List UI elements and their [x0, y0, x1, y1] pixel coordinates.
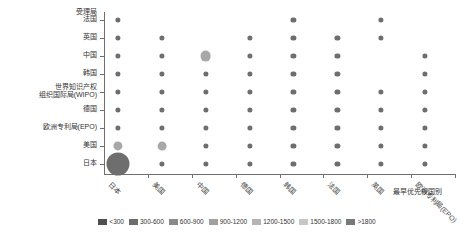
data-bubble: [159, 161, 164, 166]
legend-item[interactable]: 300-600: [129, 218, 164, 225]
legend-swatch: [169, 219, 178, 225]
x-axis-tick: [367, 174, 368, 178]
y-axis-label-line: 韩国: [0, 69, 97, 77]
x-axis-label: 德国: [238, 179, 255, 196]
data-bubble: [291, 107, 296, 112]
data-bubble: [335, 161, 340, 166]
data-bubble: [335, 53, 340, 58]
y-axis-label: 世界知识产权组织国际局(WIPO): [0, 83, 97, 99]
data-bubble: [115, 53, 120, 58]
data-bubble: [335, 125, 340, 130]
data-bubble: [106, 153, 129, 176]
data-bubble: [291, 89, 296, 94]
x-axis-label: 英国: [370, 179, 387, 196]
y-axis-label: 英国: [0, 33, 97, 41]
data-bubble: [422, 89, 427, 94]
x-axis-label: 韩国: [282, 179, 299, 196]
data-bubble: [115, 35, 120, 40]
legend-item[interactable]: >1800: [346, 218, 375, 225]
data-bubble: [335, 35, 340, 40]
y-axis-label-line: 欧洲专利局(EPO): [0, 123, 97, 131]
data-bubble: [379, 107, 384, 112]
x-axis-tick: [236, 174, 237, 178]
legend-label: 600-900: [180, 218, 204, 225]
data-bubble: [422, 143, 427, 148]
y-axis-label: 韩国: [0, 69, 97, 77]
data-bubble: [291, 125, 296, 130]
size-legend: <300300-600600-900900-12001200-15001500-…: [0, 218, 474, 225]
x-axis-tick: [148, 174, 149, 178]
y-axis-label-line: 组织国际局(WIPO): [0, 91, 97, 99]
bubble-chart: 受理局 法国英国中国韩国世界知识产权组织国际局(WIPO)德国欧洲专利局(EPO…: [0, 0, 474, 245]
y-axis-label-line: 德国: [0, 105, 97, 113]
y-axis-label-line: 美国: [0, 141, 97, 149]
x-axis-tick: [280, 174, 281, 178]
data-bubble: [422, 53, 427, 58]
data-bubble: [422, 107, 427, 112]
data-bubble: [115, 89, 120, 94]
y-axis-label-line: 世界知识产权: [0, 83, 97, 91]
data-bubble: [159, 71, 164, 76]
data-bubble: [291, 71, 296, 76]
plot-area: [104, 12, 455, 174]
legend-item[interactable]: 600-900: [169, 218, 204, 225]
data-bubble: [379, 125, 384, 130]
data-bubble: [200, 51, 211, 62]
legend-swatch: [346, 219, 355, 225]
data-bubble: [335, 89, 340, 94]
y-axis-label-line: 中国: [0, 51, 97, 59]
data-bubble: [157, 142, 166, 151]
x-axis-label: 中国: [195, 179, 212, 196]
data-bubble: [203, 125, 208, 130]
data-bubble: [422, 125, 427, 130]
data-bubble: [159, 107, 164, 112]
data-bubble: [379, 35, 384, 40]
legend-swatch: [209, 219, 218, 225]
x-axis-tick: [411, 174, 412, 178]
x-axis-tick: [455, 174, 456, 178]
data-bubble: [247, 107, 252, 112]
data-bubble: [291, 143, 296, 148]
data-bubble: [115, 17, 120, 22]
data-bubble: [203, 89, 208, 94]
data-bubble: [422, 161, 427, 166]
data-bubble: [247, 89, 252, 94]
y-axis-label: 美国: [0, 141, 97, 149]
data-bubble: [203, 143, 208, 148]
data-bubble: [113, 141, 122, 150]
x-axis-label: 美国: [151, 179, 168, 196]
legend-item[interactable]: <300: [98, 218, 124, 225]
legend-swatch: [98, 219, 107, 225]
x-axis-title: 最早优先权国别: [393, 186, 442, 196]
data-bubble: [247, 53, 252, 58]
legend-swatch: [252, 219, 261, 225]
data-bubble: [247, 35, 252, 40]
legend-swatch: [299, 219, 308, 225]
data-bubble: [159, 125, 164, 130]
data-bubble: [379, 161, 384, 166]
data-bubble: [115, 107, 120, 112]
x-axis-label: 日本: [107, 179, 124, 196]
legend-item[interactable]: 1500-1800: [299, 218, 341, 225]
y-axis-label-line: 日本: [0, 159, 97, 167]
y-axis-label: 德国: [0, 105, 97, 113]
legend-item[interactable]: 900-1200: [209, 218, 247, 225]
data-bubble: [159, 53, 164, 58]
legend-item[interactable]: 1200-1500: [252, 218, 294, 225]
data-bubble: [335, 71, 340, 76]
x-axis-tick: [323, 174, 324, 178]
legend-label: <300: [109, 218, 124, 225]
x-axis-label: 法国: [326, 179, 343, 196]
data-bubble: [379, 17, 384, 22]
data-bubble: [115, 71, 120, 76]
y-axis-label: 欧洲专利局(EPO): [0, 123, 97, 131]
data-bubble: [115, 125, 120, 130]
data-bubble: [291, 35, 296, 40]
data-bubble: [379, 89, 384, 94]
data-bubble: [247, 71, 252, 76]
y-axis-label-line: 法国: [0, 15, 97, 23]
legend-label: >1800: [357, 218, 375, 225]
data-bubble: [335, 143, 340, 148]
data-bubble: [203, 107, 208, 112]
x-axis-tick: [192, 174, 193, 178]
